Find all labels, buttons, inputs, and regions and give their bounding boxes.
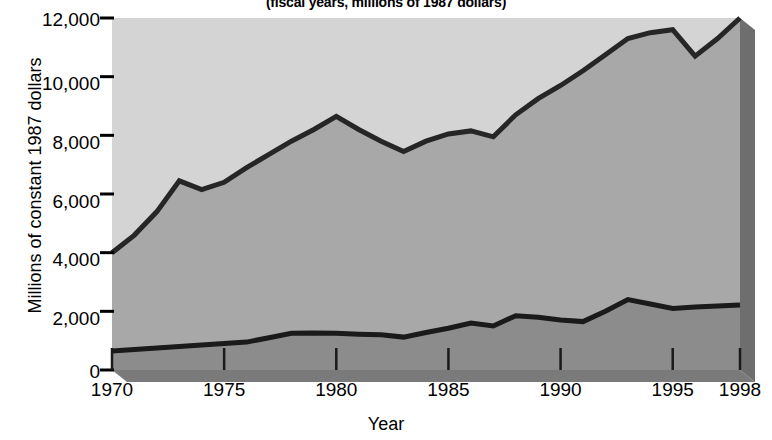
x-tick-label: 1985 [427, 380, 469, 399]
x-tick-label: 1980 [315, 380, 357, 399]
x-tick-label: 1998 [719, 380, 761, 399]
y-tick-marks [100, 18, 114, 370]
x-tick-label: 1990 [539, 380, 581, 399]
chart-plot-area [0, 0, 772, 440]
x-tick-label: 1995 [652, 380, 694, 399]
right-shadow-face [740, 18, 755, 382]
x-axis-label: Year [0, 414, 772, 435]
chart-figure: (fiscal years, millions of 1987 dollars)… [0, 0, 772, 440]
x-tick-label: 1975 [203, 380, 245, 399]
x-tick-label: 1970 [91, 380, 133, 399]
